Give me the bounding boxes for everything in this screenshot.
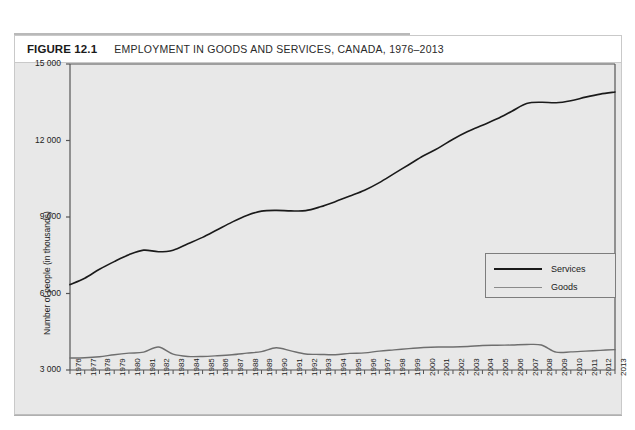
legend-label-goods: Goods — [551, 282, 578, 292]
legend-swatch-goods — [494, 287, 542, 288]
figure-bottom-rule — [14, 415, 622, 416]
figure-container: FIGURE 12.1 EMPLOYMENT IN GOODS AND SERV… — [0, 0, 635, 430]
legend-label-services: Services — [551, 264, 586, 274]
legend-item-services[interactable]: Services — [494, 262, 586, 276]
legend-item-goods[interactable]: Goods — [494, 280, 578, 294]
data-series-group — [70, 92, 615, 358]
series-line-goods — [70, 344, 615, 358]
figure-title-bar: FIGURE 12.1 EMPLOYMENT IN GOODS AND SERV… — [14, 35, 622, 63]
chart-legend[interactable]: Services Goods — [485, 253, 616, 298]
plot-area — [15, 63, 623, 415]
figure-title: EMPLOYMENT IN GOODS AND SERVICES, CANADA… — [114, 43, 444, 55]
chart-panel: Number of people (in thousands) Year 15 … — [14, 63, 622, 415]
figure-number: FIGURE 12.1 — [27, 43, 97, 55]
legend-swatch-services — [494, 268, 542, 270]
axes — [70, 64, 615, 370]
